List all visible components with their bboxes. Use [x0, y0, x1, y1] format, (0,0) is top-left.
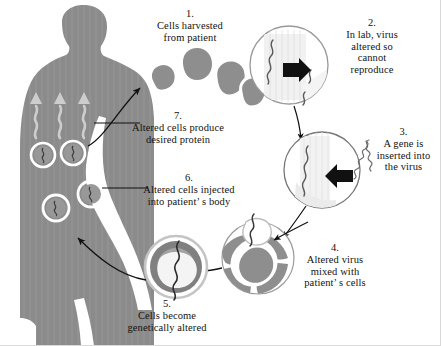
step-number-3: 3.	[366, 126, 441, 138]
step-line: inserted into	[366, 150, 441, 162]
step-line: reproduce	[326, 64, 418, 76]
step-number-5: 5.	[108, 298, 226, 310]
body-cell	[78, 181, 104, 207]
cell-cluster-harvested	[150, 44, 266, 107]
step-line: A gene is	[366, 138, 441, 150]
caption-step-7: 7. Altered cells produce desired protein	[110, 110, 246, 145]
step-line: from patient	[137, 32, 243, 44]
body-cell	[61, 141, 85, 165]
step-number-4: 4.	[277, 242, 393, 254]
step-number-1: 1.	[137, 8, 243, 20]
body-cell	[31, 143, 55, 167]
step-line: into patient’ s body	[124, 196, 254, 208]
caption-step-2: 2. In lab, virus altered so cannot repro…	[326, 17, 418, 76]
caption-step-4: 4. Altered virus mixed with patient’ s c…	[277, 242, 393, 289]
step-line: Altered cells produce	[110, 122, 246, 134]
step-line: genetically altered	[108, 322, 226, 334]
step-line: patient’ s cells	[277, 277, 393, 289]
caption-step-1: 1. Cells harvested from patient	[137, 8, 243, 43]
altered-cell	[145, 236, 207, 300]
step-number-2: 2.	[326, 17, 418, 29]
step-line: Altered cells injected	[124, 184, 254, 196]
step-line: Cells harvested	[137, 20, 243, 32]
step-line: Altered virus	[277, 254, 393, 266]
arrow-step2-to-step3	[294, 106, 301, 140]
step-number-7: 7.	[110, 110, 246, 122]
body-cell	[43, 195, 69, 221]
caption-step-5: 5. Cells become genetically altered	[108, 298, 226, 333]
step-line: mixed with	[277, 266, 393, 278]
step-line: desired protein	[110, 134, 246, 146]
virus-circle-gene-insert	[284, 132, 372, 210]
step-number-6: 6.	[124, 172, 254, 184]
caption-step-3: 3. A gene is inserted into the virus	[366, 126, 441, 173]
gene-therapy-diagram: 1. Cells harvested from patient 2. In la…	[0, 0, 441, 346]
step-line: the virus	[366, 161, 441, 173]
step-line: cannot	[326, 52, 418, 64]
step-line: altered so	[326, 41, 418, 53]
step-line: In lab, virus	[326, 29, 418, 41]
entering-virus	[243, 214, 271, 246]
caption-step-6: 6. Altered cells injected into patient’ …	[124, 172, 254, 207]
step-line: Cells become	[108, 310, 226, 322]
